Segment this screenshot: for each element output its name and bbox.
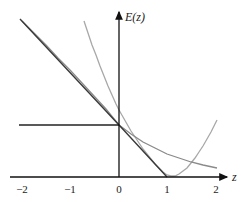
loss-function-chart: −2 −1 0 1 2 z E(z) <box>0 0 244 202</box>
squared-loss-curve <box>84 20 216 177</box>
x-tick-label: 2 <box>213 183 219 195</box>
x-axis-label: z <box>231 170 237 184</box>
x-tick-label: −1 <box>64 183 76 195</box>
x-tick-label: 0 <box>116 183 122 195</box>
x-tick-label: 1 <box>164 183 170 195</box>
squared-loss-path <box>84 21 217 176</box>
x-tick-label: −2 <box>16 183 28 195</box>
y-axis-label: E(z) <box>124 10 145 24</box>
hinge-loss-line <box>20 19 167 177</box>
